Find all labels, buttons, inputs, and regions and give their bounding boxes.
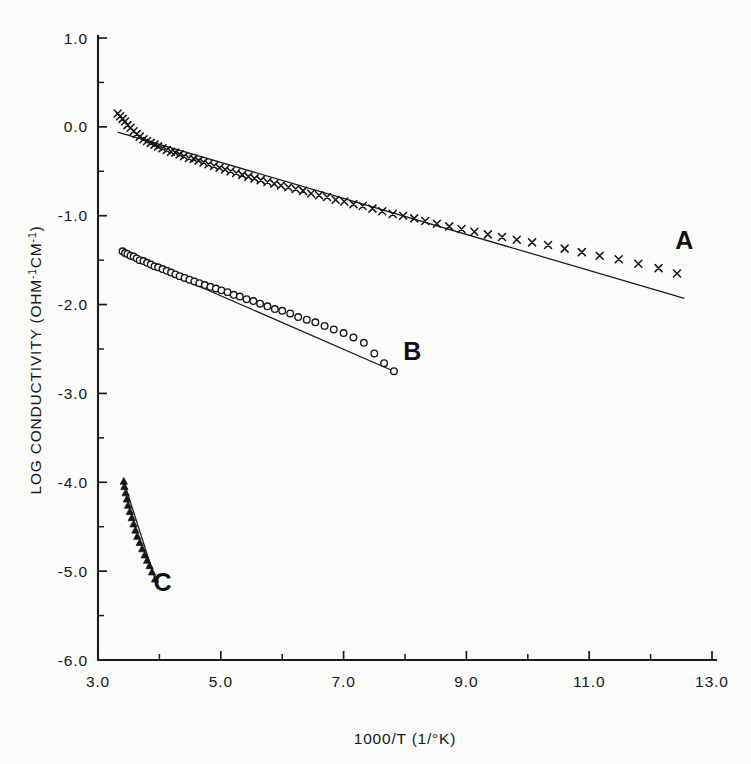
chart-background <box>0 0 751 764</box>
data-point <box>303 316 310 323</box>
data-point <box>381 360 388 367</box>
data-point <box>371 350 378 357</box>
curve-label-C: C <box>153 568 171 596</box>
data-point <box>312 319 319 326</box>
data-point <box>264 303 271 310</box>
svg-text:LOG CONDUCTIVITY (OHM-1CM-1): LOG CONDUCTIVITY (OHM-1CM-1) <box>26 225 44 494</box>
data-point <box>330 326 337 333</box>
y-tick-label: -3.0 <box>58 385 88 402</box>
y-tick-label: -5.0 <box>58 563 88 580</box>
y-axis-title-mid: CM <box>27 242 44 268</box>
data-point <box>340 330 347 337</box>
curve-label-A: A <box>675 226 693 254</box>
y-axis-title-sup2: -1 <box>26 231 38 242</box>
y-tick-label: -1.0 <box>58 207 88 224</box>
y-tick-label: -2.0 <box>58 296 88 313</box>
y-tick-label: -6.0 <box>58 652 88 669</box>
data-point <box>237 293 244 300</box>
data-point <box>257 300 264 307</box>
data-point <box>287 310 294 317</box>
data-point <box>250 298 257 305</box>
x-tick-label: 11.0 <box>573 673 606 690</box>
y-tick-label: -4.0 <box>58 474 88 491</box>
data-point <box>321 323 328 330</box>
x-tick-label: 5.0 <box>209 673 233 690</box>
x-tick-label: 13.0 <box>695 673 729 690</box>
x-tick-label: 3.0 <box>86 673 110 690</box>
y-tick-label: 1.0 <box>64 30 88 47</box>
data-point <box>391 368 398 375</box>
data-point <box>243 296 250 303</box>
figure-container: 3.05.07.09.011.013.01.00.0-1.0-2.0-3.0-4… <box>0 0 751 764</box>
y-axis-title-end: ) <box>27 225 44 231</box>
data-point <box>361 339 368 346</box>
curve-label-B: B <box>403 337 421 365</box>
y-tick-label: 0.0 <box>64 118 88 135</box>
data-point <box>350 334 357 341</box>
conductivity-arrhenius-chart: 3.05.07.09.011.013.01.00.0-1.0-2.0-3.0-4… <box>0 0 751 764</box>
y-axis-title-main: LOG CONDUCTIVITY (OHM <box>27 279 44 494</box>
data-point <box>272 306 279 313</box>
x-axis-title: 1000/T (1/°K) <box>354 730 456 747</box>
data-point <box>295 314 302 321</box>
y-axis-title-sup1: -1 <box>26 268 38 279</box>
page-caption-ghost <box>6 748 11 764</box>
x-tick-label: 9.0 <box>454 673 478 690</box>
data-point <box>279 307 286 314</box>
x-tick-label: 7.0 <box>331 673 355 690</box>
y-axis-title: LOG CONDUCTIVITY (OHM-1CM-1) <box>26 225 44 494</box>
